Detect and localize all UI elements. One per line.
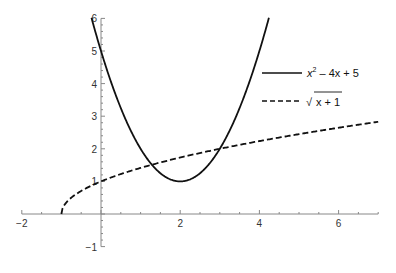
y-tick-label: −1 [86, 242, 98, 253]
curves [61, 18, 378, 214]
y-tick-label: 4 [91, 79, 97, 90]
y-tick-label: 1 [91, 176, 97, 187]
legend-label-sqrt: x + 1 [316, 96, 340, 108]
y-tick-label: 2 [91, 144, 97, 155]
x-tick-label: −2 [16, 218, 28, 229]
x-tick-label: 4 [257, 218, 263, 229]
x-tick-label: 6 [336, 218, 342, 229]
legend-label-parabola: x2 – 4x + 5 [306, 66, 359, 79]
sqrt-curve [61, 122, 378, 214]
function-plot: −2246−1123456 x2 – 4x + 5 √ x + 1 [0, 0, 396, 273]
y-tick-label: 5 [91, 46, 97, 57]
axes: −2246−1123456 [16, 13, 378, 252]
y-tick-label: 3 [91, 111, 97, 122]
x-tick-label: 2 [177, 218, 183, 229]
legend: x2 – 4x + 5 √ x + 1 [262, 66, 359, 108]
sqrt-radical-icon: √ [306, 96, 313, 108]
